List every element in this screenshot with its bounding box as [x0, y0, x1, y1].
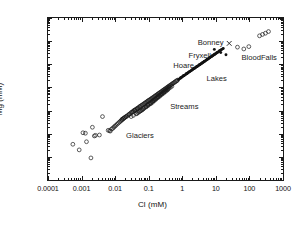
x-tick-label: 0.1: [144, 184, 154, 193]
scatter-plot-figure: GlaciersStreamsHoareFryxellBonneyLakesBl…: [0, 0, 305, 227]
x-tick-label: 1000: [275, 184, 291, 193]
x-tick-label: 0.01: [108, 184, 122, 193]
x-tick-label: 10: [212, 184, 220, 193]
x-tick-label: 0.0001: [37, 184, 58, 193]
plot-annotation-hoare: Hoare: [173, 60, 194, 69]
x-tick-label: 0.001: [73, 184, 91, 193]
plot-annotation-bonney: Bonney: [198, 37, 224, 46]
plot-annotation-streams: Streams: [170, 101, 198, 110]
x-tick-label: 100: [244, 184, 256, 193]
x-axis-title: Cl (mM): [0, 200, 305, 209]
plot-annotation-bloodfalls: BloodFalls: [241, 52, 276, 61]
plot-annotation-lakes: Lakes: [206, 73, 226, 82]
plot-annotation-glaciers: Glaciers: [126, 130, 154, 139]
plot-area: [48, 18, 283, 180]
y-axis-title: Mg (mM): [0, 54, 4, 144]
data-points-layer: [48, 18, 283, 180]
x-tick-label: 1: [180, 184, 184, 193]
plot-annotation-fryxell: Fryxell: [189, 50, 211, 59]
plot-frame: GlaciersStreamsHoareFryxellBonneyLakesBl…: [47, 17, 284, 181]
